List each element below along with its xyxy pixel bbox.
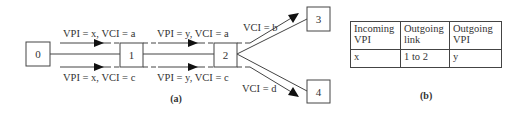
caption-b: (b) xyxy=(420,90,432,101)
cell-incoming-vpi: x xyxy=(351,50,401,68)
table-header-row: IncomingVPI Outgoinglink OutgoingVPI xyxy=(351,22,502,50)
header-outgoing-link: Outgoinglink xyxy=(401,22,450,50)
node-2: 2 xyxy=(214,43,237,67)
header-incoming-vpi: IncomingVPI xyxy=(351,22,401,50)
arrow-icon xyxy=(188,63,198,71)
arrow-icon xyxy=(288,87,299,97)
svg-text:4: 4 xyxy=(316,86,322,98)
cell-outgoing-link: 1 to 2 xyxy=(401,50,450,68)
svg-text:0: 0 xyxy=(35,48,41,60)
label-link24: VCI = d xyxy=(242,83,277,94)
arrow-icon xyxy=(288,13,299,23)
node-4: 4 xyxy=(307,80,330,103)
arrow-icon xyxy=(94,39,104,47)
header-outgoing-vpi: OutgoingVPI xyxy=(450,22,502,50)
caption-a: (a) xyxy=(170,93,182,105)
label-link01-top: VPI = x, VCI = a xyxy=(63,28,136,39)
vpi-translation-table: IncomingVPI Outgoinglink OutgoingVPI x 1… xyxy=(350,21,502,68)
node-3: 3 xyxy=(307,7,330,31)
arrow-icon xyxy=(94,63,104,71)
label-link23: VCI = b xyxy=(243,22,278,33)
svg-text:2: 2 xyxy=(223,49,229,61)
node-1: 1 xyxy=(120,43,143,67)
svg-text:1: 1 xyxy=(129,49,135,61)
node-0: 0 xyxy=(26,42,50,66)
label-link12-top: VPI = y, VCI = a xyxy=(157,28,229,39)
svg-text:3: 3 xyxy=(316,13,322,25)
cell-outgoing-vpi: y xyxy=(450,50,502,68)
arrow-icon xyxy=(188,39,198,47)
table-row: x 1 to 2 y xyxy=(351,50,502,68)
label-link12-bottom: VPI = y, VCI = c xyxy=(157,72,229,83)
label-link01-bottom: VPI = x, VCI = c xyxy=(63,72,136,83)
